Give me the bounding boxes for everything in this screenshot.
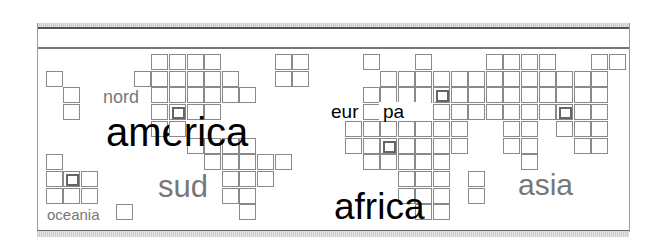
- tile[interactable]: [591, 121, 608, 137]
- tile[interactable]: [380, 71, 397, 87]
- tile[interactable]: [433, 154, 450, 170]
- tile[interactable]: [433, 121, 450, 137]
- tile[interactable]: [239, 204, 256, 220]
- tile[interactable]: [116, 204, 133, 220]
- tile[interactable]: [415, 154, 432, 170]
- tile[interactable]: [574, 121, 591, 137]
- tile[interactable]: [556, 71, 573, 87]
- tile[interactable]: [591, 54, 608, 70]
- tile[interactable]: [81, 188, 98, 204]
- tile[interactable]: [415, 54, 432, 70]
- tile[interactable]: [556, 121, 573, 137]
- tile[interactable]: [503, 121, 520, 137]
- tile[interactable]: [275, 154, 292, 170]
- tile[interactable]: [169, 87, 186, 103]
- tile[interactable]: [46, 171, 63, 187]
- tile[interactable]: [257, 154, 274, 170]
- tile[interactable]: [468, 104, 485, 120]
- tile[interactable]: [591, 104, 608, 120]
- tile[interactable]: [239, 171, 256, 187]
- tile[interactable]: [363, 104, 380, 120]
- tile[interactable]: [521, 121, 538, 137]
- tile[interactable]: [415, 87, 432, 103]
- tile[interactable]: [521, 138, 538, 154]
- tile[interactable]: [222, 188, 239, 204]
- tile[interactable]: [609, 54, 626, 70]
- tile[interactable]: [363, 121, 380, 137]
- tile[interactable]: [503, 54, 520, 70]
- tile[interactable]: [539, 71, 556, 87]
- tile[interactable]: [415, 121, 432, 137]
- tile[interactable]: [169, 121, 186, 137]
- tile[interactable]: [151, 71, 168, 87]
- tile[interactable]: [468, 171, 485, 187]
- tile[interactable]: [433, 171, 450, 187]
- tile[interactable]: [239, 154, 256, 170]
- tile[interactable]: [345, 138, 362, 154]
- tile-selected[interactable]: [433, 87, 450, 103]
- tile[interactable]: [292, 54, 309, 70]
- tile[interactable]: [222, 154, 239, 170]
- tile[interactable]: [363, 87, 380, 103]
- tile[interactable]: [380, 154, 397, 170]
- tile[interactable]: [574, 87, 591, 103]
- tile[interactable]: [398, 138, 415, 154]
- tile[interactable]: [591, 87, 608, 103]
- tile[interactable]: [204, 154, 221, 170]
- tile[interactable]: [63, 188, 80, 204]
- tile[interactable]: [503, 138, 520, 154]
- tile[interactable]: [345, 121, 362, 137]
- tile-selected[interactable]: [556, 104, 573, 120]
- tile[interactable]: [363, 138, 380, 154]
- tile[interactable]: [187, 54, 204, 70]
- tile[interactable]: [151, 87, 168, 103]
- tile[interactable]: [415, 171, 432, 187]
- tile[interactable]: [398, 171, 415, 187]
- tile[interactable]: [486, 104, 503, 120]
- tile[interactable]: [539, 87, 556, 103]
- tile[interactable]: [363, 154, 380, 170]
- tile[interactable]: [169, 71, 186, 87]
- tile[interactable]: [134, 71, 151, 87]
- tile[interactable]: [503, 104, 520, 120]
- tile[interactable]: [222, 171, 239, 187]
- tile[interactable]: [521, 71, 538, 87]
- tile[interactable]: [398, 71, 415, 87]
- tile[interactable]: [574, 138, 591, 154]
- tile[interactable]: [468, 71, 485, 87]
- tile[interactable]: [451, 104, 468, 120]
- tile[interactable]: [169, 54, 186, 70]
- tile[interactable]: [574, 104, 591, 120]
- tile[interactable]: [63, 87, 80, 103]
- tile[interactable]: [46, 71, 63, 87]
- tile[interactable]: [451, 87, 468, 103]
- tile[interactable]: [451, 138, 468, 154]
- tile[interactable]: [46, 154, 63, 170]
- tile[interactable]: [433, 104, 450, 120]
- tile[interactable]: [398, 121, 415, 137]
- tile-selected[interactable]: [63, 171, 80, 187]
- tile[interactable]: [204, 71, 221, 87]
- tile[interactable]: [486, 71, 503, 87]
- tile[interactable]: [503, 87, 520, 103]
- tile[interactable]: [433, 204, 450, 220]
- tile[interactable]: [204, 54, 221, 70]
- tile[interactable]: [521, 87, 538, 103]
- tile[interactable]: [151, 54, 168, 70]
- tile[interactable]: [222, 71, 239, 87]
- tile[interactable]: [468, 188, 485, 204]
- tile[interactable]: [591, 71, 608, 87]
- tile[interactable]: [503, 71, 520, 87]
- tile[interactable]: [239, 188, 256, 204]
- tile[interactable]: [539, 54, 556, 70]
- tile[interactable]: [574, 71, 591, 87]
- tile[interactable]: [521, 104, 538, 120]
- tile[interactable]: [415, 71, 432, 87]
- tile[interactable]: [292, 71, 309, 87]
- tile[interactable]: [591, 138, 608, 154]
- tile[interactable]: [275, 54, 292, 70]
- tile[interactable]: [204, 87, 221, 103]
- tile[interactable]: [486, 87, 503, 103]
- tile[interactable]: [363, 54, 380, 70]
- tile[interactable]: [63, 104, 80, 120]
